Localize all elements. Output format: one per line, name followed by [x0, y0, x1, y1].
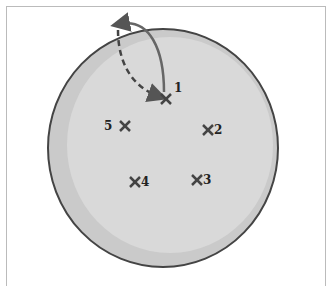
position-label: 5 [104, 119, 112, 133]
position-label: 3 [203, 173, 211, 187]
position-label: 1 [174, 81, 182, 95]
position-label: 4 [141, 175, 149, 189]
position-label: 2 [214, 123, 222, 137]
